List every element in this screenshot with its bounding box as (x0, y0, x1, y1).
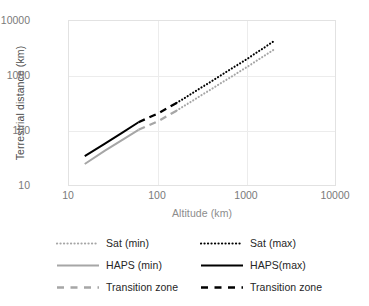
legend-swatch-dashed-black (200, 282, 244, 293)
legend-swatch-dashed-gray (56, 282, 100, 293)
series-line (177, 41, 275, 103)
legend-swatch-dotted-black (200, 238, 244, 249)
x-tick-label: 1000 (216, 189, 276, 201)
legend-item-haps-max[interactable]: HAPS(max) (200, 254, 350, 276)
x-tick-label: 10 (38, 189, 98, 201)
y-tick-label: 10000 (0, 14, 30, 26)
legend-swatch-solid-gray (56, 260, 100, 271)
legend-label: HAPS(max) (250, 259, 306, 271)
y-axis-title: Terrestrial distance (km) (14, 0, 32, 206)
chart-legend: Sat (min) Sat (max) HAPS (min) HAPS(max)… (40, 232, 340, 298)
legend-swatch-dotted-gray (56, 238, 100, 249)
legend-item-haps-min[interactable]: HAPS (min) (56, 254, 206, 276)
legend-label: Transition zone (106, 281, 178, 293)
legend-label: HAPS (min) (106, 259, 162, 271)
series-line (85, 122, 139, 156)
legend-label: Sat (max) (250, 237, 296, 249)
series-layer (69, 21, 337, 187)
y-tick-label: 10 (0, 179, 30, 191)
series-line (85, 130, 139, 164)
x-tick-label: 10000 (305, 189, 365, 201)
x-tick-label: 100 (127, 189, 187, 201)
legend-item-sat-min[interactable]: Sat (min) (56, 232, 206, 254)
series-line (177, 49, 275, 110)
legend-item-transition-zone-gray[interactable]: Transition zone (56, 276, 206, 298)
x-axis-title: Altitude (km) (68, 207, 336, 219)
legend-label: Sat (min) (106, 237, 149, 249)
legend-item-transition-zone-black[interactable]: Transition zone (200, 276, 350, 298)
y-tick-label: 1000 (0, 69, 30, 81)
chart-figure: Terrestrial distance (km) 10000 1000 100… (0, 0, 369, 306)
plot-area (68, 20, 336, 186)
legend-item-sat-max[interactable]: Sat (max) (200, 232, 350, 254)
y-tick-label: 100 (0, 124, 30, 136)
legend-swatch-solid-black (200, 260, 244, 271)
legend-label: Transition zone (250, 281, 322, 293)
